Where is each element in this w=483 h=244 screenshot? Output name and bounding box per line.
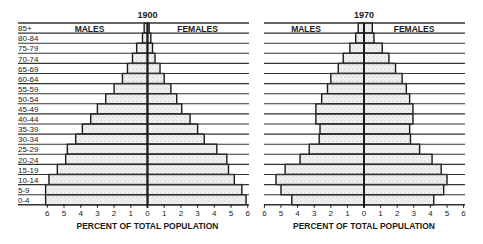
male-bar bbox=[292, 195, 364, 205]
male-bar bbox=[97, 104, 147, 114]
x-tick-label: 1 bbox=[378, 209, 383, 218]
male-bar bbox=[285, 164, 364, 174]
x-tick-label: 5 bbox=[445, 209, 450, 218]
females-label: FEMALES bbox=[394, 24, 435, 34]
male-bar bbox=[300, 154, 364, 164]
age-label: 35-39 bbox=[18, 125, 39, 134]
x-tick-label: 0 bbox=[362, 209, 367, 218]
x-tick-label: 3 bbox=[412, 209, 417, 218]
female-bar bbox=[148, 84, 171, 94]
x-tick-label: 4 bbox=[295, 209, 300, 218]
female-bar bbox=[364, 104, 413, 114]
age-label: 45-49 bbox=[18, 105, 39, 114]
female-bar bbox=[364, 134, 410, 144]
females-label: FEMALES bbox=[177, 24, 218, 34]
male-bar bbox=[137, 43, 148, 53]
female-bar bbox=[364, 124, 410, 134]
age-label: 65-69 bbox=[18, 65, 39, 74]
age-label: 80-84 bbox=[18, 34, 39, 43]
male-bar bbox=[276, 175, 364, 185]
age-label: 70-74 bbox=[18, 55, 39, 64]
age-label: 20-24 bbox=[18, 156, 39, 165]
x-tick-label: 2 bbox=[179, 209, 184, 218]
male-bar bbox=[338, 63, 364, 73]
male-bar bbox=[132, 53, 147, 63]
female-bar bbox=[364, 185, 444, 195]
female-bar bbox=[148, 104, 182, 114]
x-tick-label: 5 bbox=[62, 209, 67, 218]
age-label: 85+ bbox=[18, 24, 32, 33]
age-label: 15-19 bbox=[18, 166, 39, 175]
female-bar bbox=[364, 175, 447, 185]
male-bar bbox=[82, 124, 147, 134]
male-bar bbox=[66, 154, 148, 164]
chart-title: 1900 bbox=[137, 10, 157, 20]
female-bar bbox=[148, 164, 229, 174]
male-bar bbox=[106, 94, 148, 104]
female-bar bbox=[364, 43, 382, 53]
female-bar bbox=[148, 185, 242, 195]
female-bar bbox=[148, 94, 177, 104]
male-bar bbox=[327, 84, 364, 94]
age-label: 30-34 bbox=[18, 135, 39, 144]
age-label: 60-64 bbox=[18, 75, 39, 84]
x-tick-label: 6 bbox=[461, 209, 466, 218]
male-bar bbox=[127, 63, 147, 73]
female-bar bbox=[364, 63, 396, 73]
male-bar bbox=[91, 114, 148, 124]
x-tick-label: 3 bbox=[95, 209, 100, 218]
male-bar bbox=[46, 185, 148, 195]
pyramid-1970: 1970MALESFEMALES6543210123456PERCENT OF … bbox=[262, 10, 466, 231]
male-bar bbox=[57, 164, 147, 174]
female-bar bbox=[364, 164, 441, 174]
female-bar bbox=[364, 84, 406, 94]
male-bar bbox=[76, 134, 148, 144]
x-tick-label: 1 bbox=[162, 209, 167, 218]
female-bar bbox=[148, 154, 227, 164]
female-bar bbox=[148, 124, 198, 134]
female-bar bbox=[148, 74, 165, 84]
age-label: 50-54 bbox=[18, 95, 39, 104]
chart-title: 1970 bbox=[354, 10, 374, 20]
male-bar bbox=[114, 84, 147, 94]
male-bar bbox=[122, 74, 147, 84]
female-bar bbox=[364, 33, 374, 43]
male-bar bbox=[350, 43, 364, 53]
male-bar bbox=[320, 124, 364, 134]
female-bar bbox=[364, 94, 410, 104]
male-bar bbox=[319, 134, 364, 144]
x-tick-label: 3 bbox=[312, 209, 317, 218]
age-label: 25-29 bbox=[18, 145, 39, 154]
x-tick-label: 1 bbox=[345, 209, 350, 218]
male-bar bbox=[281, 185, 364, 195]
female-bar bbox=[148, 53, 156, 63]
female-bar bbox=[148, 144, 217, 154]
female-bar bbox=[364, 23, 372, 33]
male-bar bbox=[309, 144, 364, 154]
age-label: 0-4 bbox=[18, 196, 30, 205]
males-label: MALES bbox=[291, 24, 321, 34]
age-label: 10-14 bbox=[18, 176, 39, 185]
x-tick-label: 6 bbox=[45, 209, 50, 218]
female-bar bbox=[364, 53, 389, 63]
female-bar bbox=[364, 114, 413, 124]
male-bar bbox=[356, 33, 364, 43]
female-bar bbox=[148, 175, 235, 185]
x-tick-label: 3 bbox=[195, 209, 200, 218]
pyramid-1900: 1900MALESFEMALES6543210123456PERCENT OF … bbox=[18, 10, 250, 231]
x-tick-label: 2 bbox=[112, 209, 117, 218]
x-tick-label: 2 bbox=[395, 209, 400, 218]
x-tick-label: 0 bbox=[145, 209, 150, 218]
x-tick-label: 4 bbox=[212, 209, 217, 218]
males-label: MALES bbox=[75, 24, 105, 34]
population-pyramids-figure: 85+80-8475-7970-7465-6960-6455-5950-5445… bbox=[0, 0, 483, 244]
x-tick-label: 4 bbox=[428, 209, 433, 218]
age-label: 40-44 bbox=[18, 115, 39, 124]
male-bar bbox=[331, 74, 364, 84]
age-label: 5-9 bbox=[18, 186, 30, 195]
male-bar bbox=[46, 195, 148, 205]
x-tick-label: 6 bbox=[262, 209, 267, 218]
female-bar bbox=[148, 63, 161, 73]
female-bar bbox=[148, 114, 191, 124]
x-axis-label: PERCENT OF TOTAL POPULATION bbox=[77, 221, 219, 231]
